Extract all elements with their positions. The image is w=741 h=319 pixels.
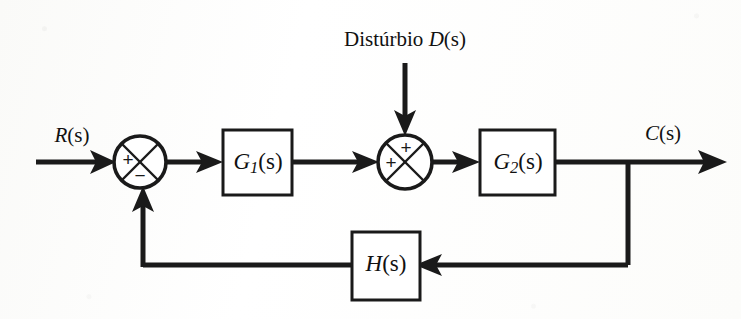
h-var: H: [365, 251, 384, 276]
output-var: C: [645, 121, 660, 145]
g1-subscript: 1: [250, 158, 258, 177]
g1-var: G: [233, 149, 250, 174]
plant-block-g2-label: G2(s): [493, 149, 542, 177]
sign-positive-forward: +: [385, 152, 396, 173]
output-arg: (s): [659, 121, 681, 145]
disturbance-arg: (s): [444, 27, 466, 51]
disturbance-var: D: [428, 27, 444, 51]
input-signal-label: R(s): [54, 123, 90, 147]
feedback-block-h[interactable]: H(s): [352, 232, 420, 300]
h-arg: (s): [382, 251, 406, 276]
summing-junction-disturbance[interactable]: + +: [378, 135, 432, 189]
feedback-block-h-label: H(s): [365, 251, 407, 276]
diagram-canvas: G1(s) G2(s) H(s): [0, 0, 741, 319]
output-signal-label: C(s): [645, 121, 681, 145]
sign-positive-input-r: +: [122, 149, 133, 170]
disturbance-caption: Distúrbio: [344, 27, 423, 51]
g2-subscript: 2: [510, 158, 518, 177]
input-var: R: [54, 123, 68, 147]
block-diagram-figure: G1(s) G2(s) H(s): [0, 0, 741, 319]
g2-var: G: [493, 149, 510, 174]
g1-arg: (s): [258, 149, 282, 174]
disturbance-label: Distúrbio D(s): [344, 27, 466, 51]
plant-block-g1[interactable]: G1(s): [223, 130, 292, 195]
signal-label-layer: R(s) C(s) Distúrbio D(s): [54, 27, 682, 147]
g2-arg: (s): [518, 149, 542, 174]
plant-block-g1-label: G1(s): [233, 149, 282, 177]
input-arg: (s): [67, 123, 89, 147]
sign-positive-disturbance: +: [400, 137, 411, 158]
plant-block-g2[interactable]: G2(s): [480, 130, 555, 195]
sign-negative-feedback: −: [134, 165, 145, 186]
summing-junction-error[interactable]: + −: [114, 136, 166, 188]
